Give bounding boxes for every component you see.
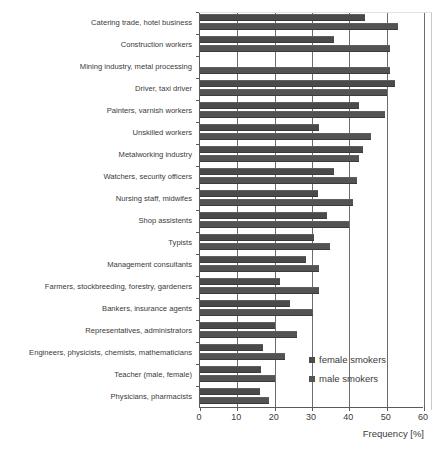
x-tick-10 xyxy=(237,407,238,411)
y-tick-1 xyxy=(196,34,200,35)
bar-female-smokers xyxy=(200,212,327,219)
bar-female-smokers xyxy=(200,14,365,21)
y-tick-8 xyxy=(196,188,200,189)
category-label: Shop assistents xyxy=(0,216,192,225)
bar-male-smokers xyxy=(200,243,330,250)
gridline-60 xyxy=(424,12,425,407)
x-tick-label-40: 40 xyxy=(336,412,360,422)
category-label: Farmers, stockbreeding, forestry, garden… xyxy=(0,282,192,291)
y-tick-6 xyxy=(196,144,200,145)
category-label: Bankers, insurance agents xyxy=(0,304,192,313)
category-label: Construction workers xyxy=(0,40,192,49)
category-label: Representatives, administrators xyxy=(0,326,192,335)
y-tick-13 xyxy=(196,298,200,299)
legend-swatch-male-icon xyxy=(309,376,315,382)
bar-female-smokers xyxy=(200,146,363,153)
bar-male-smokers xyxy=(200,23,398,30)
category-label: Driver, taxi driver xyxy=(0,84,192,93)
x-axis-title: Frequency [%] xyxy=(363,428,424,439)
bar-female-smokers xyxy=(200,344,263,351)
x-tick-label-30: 30 xyxy=(299,412,323,422)
bar-female-smokers xyxy=(200,80,395,87)
bar-male-smokers xyxy=(200,199,353,206)
bar-female-smokers xyxy=(200,300,290,307)
category-label: Painters, varnish workers xyxy=(0,106,192,115)
legend-item-male: male smokers xyxy=(309,373,386,384)
y-tick-11 xyxy=(196,254,200,255)
legend-label-male: male smokers xyxy=(319,373,378,384)
bar-female-smokers xyxy=(200,36,334,43)
x-tick-label-20: 20 xyxy=(262,412,286,422)
bar-male-smokers xyxy=(200,133,371,140)
bar-male-smokers xyxy=(200,221,349,228)
y-tick-17 xyxy=(196,386,200,387)
category-label: Teacher (male, female) xyxy=(0,370,192,379)
legend-label-female: female smokers xyxy=(319,354,386,365)
x-tick-label-50: 50 xyxy=(374,412,398,422)
bar-male-smokers xyxy=(200,287,319,294)
y-tick-4 xyxy=(196,100,200,101)
category-label: Engineers, physicists, chemists, mathema… xyxy=(0,348,192,357)
x-tick-50 xyxy=(387,407,388,411)
category-label: Catering trade, hotel business xyxy=(0,18,192,27)
bar-female-smokers xyxy=(200,388,260,395)
category-label: Unskilled workers xyxy=(0,128,192,137)
category-axis-labels: Catering trade, hotel businessConstructi… xyxy=(0,12,196,408)
chart-legend: female smokers male smokers xyxy=(309,354,386,392)
bar-female-smokers xyxy=(200,102,359,109)
category-label: Typists xyxy=(0,238,192,247)
bar-male-smokers xyxy=(200,45,390,52)
x-tick-label-60: 60 xyxy=(411,412,432,422)
legend-swatch-female-icon xyxy=(309,357,315,363)
y-tick-16 xyxy=(196,364,200,365)
plot-area xyxy=(199,12,423,408)
category-label: Metalworking industry xyxy=(0,150,192,159)
x-tick-label-10: 10 xyxy=(224,412,248,422)
x-tick-label-0: 0 xyxy=(187,412,211,422)
bar-male-smokers xyxy=(200,309,313,316)
bar-male-smokers xyxy=(200,111,385,118)
bar-male-smokers xyxy=(200,67,390,74)
x-tick-20 xyxy=(275,407,276,411)
bar-female-smokers xyxy=(200,322,275,329)
bar-female-smokers xyxy=(200,278,280,285)
bar-male-smokers xyxy=(200,89,387,96)
y-tick-3 xyxy=(196,78,200,79)
y-tick-9 xyxy=(196,210,200,211)
x-tick-0 xyxy=(200,407,201,411)
bar-female-smokers xyxy=(200,256,306,263)
bar-female-smokers xyxy=(200,124,319,131)
x-axis-tick-labels: 0102030405060 xyxy=(0,412,432,426)
bar-male-smokers xyxy=(200,265,319,272)
category-label: Physicians, pharmacists xyxy=(0,392,192,401)
bar-female-smokers xyxy=(200,190,318,197)
bar-male-smokers xyxy=(200,397,269,404)
y-tick-5 xyxy=(196,122,200,123)
category-label: Nursing staff, midwifes xyxy=(0,194,192,203)
y-tick-2 xyxy=(196,56,200,57)
y-tick-15 xyxy=(196,342,200,343)
bar-male-smokers xyxy=(200,375,275,382)
y-tick-7 xyxy=(196,166,200,167)
bar-male-smokers xyxy=(200,331,297,338)
bar-chart: Catering trade, hotel businessConstructi… xyxy=(0,0,432,451)
bar-male-smokers xyxy=(200,177,357,184)
x-tick-30 xyxy=(312,407,313,411)
bar-female-smokers xyxy=(200,234,314,241)
bar-male-smokers xyxy=(200,155,359,162)
bar-female-smokers xyxy=(200,366,261,373)
category-label: Management consultants xyxy=(0,260,192,269)
y-tick-10 xyxy=(196,232,200,233)
y-tick-0 xyxy=(196,12,200,13)
bar-female-smokers xyxy=(200,168,334,175)
x-tick-40 xyxy=(349,407,350,411)
category-label: Watchers, security officers xyxy=(0,172,192,181)
category-label: Mining industry, metal processing xyxy=(0,62,192,71)
y-tick-14 xyxy=(196,320,200,321)
legend-item-female: female smokers xyxy=(309,354,386,365)
bar-male-smokers xyxy=(200,353,285,360)
x-tick-60 xyxy=(424,407,425,411)
y-tick-12 xyxy=(196,276,200,277)
